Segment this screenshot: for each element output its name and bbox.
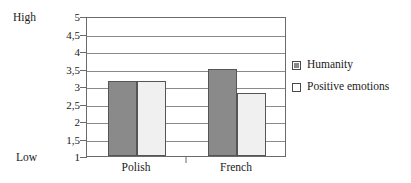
bar <box>137 81 166 156</box>
legend-item: Positive emotions <box>292 78 408 96</box>
bar <box>108 81 137 156</box>
y-axis-tick-label: 2,5 <box>66 99 80 110</box>
legend: HumanityPositive emotions <box>292 56 408 100</box>
bar <box>208 69 237 157</box>
plot-area <box>86 17 286 157</box>
bar <box>237 93 266 156</box>
legend-item: Humanity <box>292 56 408 74</box>
bar-chart: High Low 11,522,533,544,55 PolishFrench … <box>0 0 411 183</box>
bars-layer <box>87 18 285 156</box>
bar-group <box>108 18 166 156</box>
legend-label: Positive emotions <box>307 81 389 93</box>
legend-label: Humanity <box>307 59 353 71</box>
x-axis-category-label: French <box>220 162 252 174</box>
bar-group <box>208 18 266 156</box>
y-axis-tick-label: 4,5 <box>66 29 80 40</box>
x-axis-divider-tick <box>186 157 187 163</box>
x-axis-category-label: Polish <box>122 162 151 174</box>
y-axis-tick-labels: 11,522,533,544,55 <box>52 0 80 183</box>
legend-swatch-icon <box>292 61 301 70</box>
y-axis-tick-label: 1,5 <box>66 134 80 145</box>
x-axis-category-labels: PolishFrench <box>86 162 286 182</box>
axis-anchor-high-label: High <box>13 12 36 24</box>
y-axis-tick-label: 3,5 <box>66 64 80 75</box>
y-axis-tickmark <box>80 157 87 158</box>
axis-anchor-low-label: Low <box>16 152 37 164</box>
legend-swatch-icon <box>292 83 301 92</box>
